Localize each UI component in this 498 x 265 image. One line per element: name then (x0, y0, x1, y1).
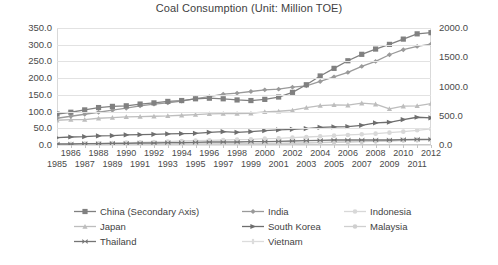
legend-item-label: Japan (100, 221, 126, 232)
gridline (57, 78, 431, 79)
x-axis-tick-label: 2011 (404, 159, 430, 170)
x-axis-tick-label: 2002 (279, 148, 305, 159)
x-axis-tick-label: 1985 (44, 159, 70, 170)
legend-item-label: Thailand (100, 236, 136, 247)
y-axis-right-tick-label: 2000.0 (439, 23, 491, 32)
legend-marker-icon (74, 236, 96, 247)
gridline (57, 112, 431, 113)
y-axis-left-tick-label: 150.0 (8, 90, 52, 99)
x-axis-tick-label: 2007 (349, 159, 375, 170)
x-axis-tick-label: 2005 (321, 159, 347, 170)
x-axis-tick-label: 1994 (169, 148, 195, 159)
gridline (57, 61, 431, 62)
legend-marker-icon (242, 221, 264, 232)
x-axis-tick-label: 1989 (99, 159, 125, 170)
x-axis-tick-label: 1986 (58, 148, 84, 159)
legend-item-label: China (Secondary Axis) (100, 206, 199, 217)
x-axis-tick-label: 1990 (113, 148, 139, 159)
legend-item-thailand[interactable]: Thailand (74, 235, 136, 248)
x-axis-tick-label: 1991 (127, 159, 153, 170)
legend-item-china-secondary-axis[interactable]: China (Secondary Axis) (74, 205, 199, 218)
legend-marker-icon (344, 221, 366, 232)
y-axis-left-tick-label: 200.0 (8, 73, 52, 82)
legend-item-japan[interactable]: Japan (74, 220, 126, 233)
legend-item-label: Malaysia (370, 221, 408, 232)
legend-item-malaysia[interactable]: Malaysia (344, 220, 408, 233)
x-axis-labels-row-even: 1986198819901992199419961998200020022004… (57, 148, 431, 159)
x-axis-tick-label: 2009 (376, 159, 402, 170)
x-axis-tick-label: 1996 (196, 148, 222, 159)
x-axis-tick-label: 2001 (266, 159, 292, 170)
legend-marker-icon (74, 221, 96, 232)
y-axis-left-tick-label: 350.0 (8, 23, 52, 32)
x-axis-tick-label: 2000 (252, 148, 278, 159)
x-axis-tick-label: 2004 (307, 148, 333, 159)
x-axis-tick-label: 1998 (224, 148, 250, 159)
x-axis-tick-label: 2010 (390, 148, 416, 159)
x-axis-tick-label: 1993 (155, 159, 181, 170)
legend-item-label: India (268, 206, 289, 217)
x-axis-tick-label: 2006 (335, 148, 361, 159)
gridline (57, 28, 431, 29)
legend-marker-icon (242, 236, 264, 247)
x-axis-tick-label: 2003 (293, 159, 319, 170)
x-axis-tick-label: 1992 (141, 148, 167, 159)
y-axis-right-tick-label: 500.0 (439, 111, 491, 120)
y-axis-right-tick-label: 0.0 (439, 140, 491, 149)
legend-marker-icon (74, 206, 96, 217)
x-axis-tick-label: 1995 (183, 159, 209, 170)
x-axis-tick-label: 2008 (363, 148, 389, 159)
x-axis-tick-label: 1997 (210, 159, 236, 170)
x-axis-tick-label: 1999 (238, 159, 264, 170)
chart-title: Coal Consumption (Unit: Million TOE) (0, 2, 498, 14)
y-axis-left-tick-label: 0.0 (8, 140, 52, 149)
plot-area (57, 28, 431, 145)
legend-item-india[interactable]: India (242, 205, 289, 218)
legend-item-vietnam[interactable]: Vietnam (242, 235, 303, 248)
x-axis-labels-row-odd: 1985198719891991199319951997199920012003… (57, 159, 431, 170)
chart-legend: China (Secondary Axis)IndiaIndonesiaJapa… (74, 205, 434, 255)
legend-item-label: Vietnam (268, 236, 303, 247)
legend-marker-icon (242, 206, 264, 217)
gridline (57, 128, 431, 129)
y-axis-left-tick-label: 100.0 (8, 107, 52, 116)
legend-item-label: Indonesia (370, 206, 411, 217)
legend-marker-icon (344, 206, 366, 217)
y-axis-right-tick-label: 1500.0 (439, 52, 491, 61)
x-axis-tick-label: 1988 (86, 148, 112, 159)
gridline (57, 45, 431, 46)
y-axis-left-tick-label: 300.0 (8, 40, 52, 49)
gridline (57, 95, 431, 96)
legend-item-indonesia[interactable]: Indonesia (344, 205, 411, 218)
y-axis-left-tick-label: 50.0 (8, 123, 52, 132)
y-axis-right-tick-label: 1000.0 (439, 82, 491, 91)
x-axis-tick-label: 1987 (72, 159, 98, 170)
legend-item-south-korea[interactable]: South Korea (242, 220, 321, 233)
y-axis-left-tick-label: 250.0 (8, 56, 52, 65)
coal-consumption-chart: Coal Consumption (Unit: Million TOE) 198… (0, 0, 498, 265)
legend-item-label: South Korea (268, 221, 321, 232)
